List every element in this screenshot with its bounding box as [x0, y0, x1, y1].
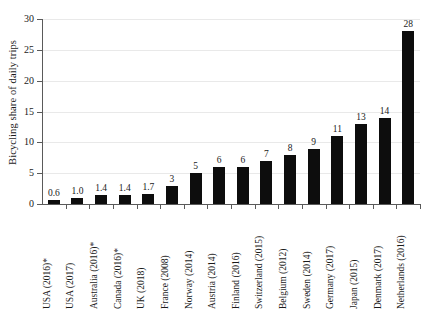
x-axis-label-text: France (2008)	[158, 255, 172, 309]
y-tick-label: 5	[12, 168, 34, 178]
y-tick-label: 0	[12, 199, 34, 209]
x-axis-label-text: Germany (2017)	[323, 246, 337, 309]
x-tick-mark	[137, 205, 138, 209]
bar-value-label: 28	[393, 20, 423, 30]
x-axis-label-text: Finland (2016)	[229, 252, 243, 309]
x-tick-mark	[89, 205, 90, 209]
x-tick-mark	[396, 205, 397, 209]
x-axis-label: France (2008)	[165, 209, 179, 309]
x-axis-label-text: Sweden (2014)	[300, 251, 314, 309]
x-axis-label-text: USA (2016)*	[40, 258, 54, 309]
x-axis-label: Switzerland (2015)	[259, 209, 273, 309]
x-axis-label: Netherlands (2016)	[401, 209, 415, 309]
x-axis-label: USA (2016)*	[47, 209, 61, 309]
bar	[308, 149, 320, 205]
x-tick-mark	[326, 205, 327, 209]
x-axis-label: Norway (2014)	[189, 209, 203, 309]
x-axis-label: Canada (2016)*	[118, 209, 132, 309]
bar-chart-figure: Bicycling share of daily trips 051015202…	[0, 0, 435, 310]
x-axis-label: Austria (2014)	[212, 209, 226, 309]
x-axis-label-text: Switzerland (2015)	[252, 236, 266, 309]
x-axis-label: Australia (2016)*	[94, 209, 108, 309]
x-tick-mark	[302, 205, 303, 209]
x-axis-label-text: Japan (2015)	[347, 260, 361, 309]
y-axis-line	[42, 19, 43, 205]
x-axis-label-text: Norway (2014)	[182, 251, 196, 309]
bar	[142, 194, 154, 204]
x-tick-mark	[349, 205, 350, 209]
bar	[213, 167, 225, 204]
bar	[119, 195, 131, 204]
bar	[355, 124, 367, 204]
bar	[284, 155, 296, 204]
x-tick-mark	[184, 205, 185, 209]
x-axis-label: Denmark (2017)	[378, 209, 392, 309]
y-tick-label: 20	[12, 76, 34, 86]
x-tick-mark	[420, 205, 421, 209]
bar	[71, 198, 83, 204]
x-axis-label-text: UK (2018)	[134, 268, 148, 309]
gridline	[42, 50, 420, 51]
x-tick-mark	[113, 205, 114, 209]
bar-value-label: 3	[157, 175, 187, 185]
bar	[331, 136, 343, 204]
bar-value-label: 11	[322, 125, 352, 135]
y-tick-label: 15	[12, 107, 34, 117]
bar	[402, 31, 414, 204]
bar	[190, 173, 202, 204]
x-axis-label-text: Denmark (2017)	[371, 246, 385, 309]
gridline	[42, 81, 420, 82]
gridline	[42, 19, 420, 20]
x-tick-mark	[373, 205, 374, 209]
bar	[237, 167, 249, 204]
x-axis-label: Finland (2016)	[236, 209, 250, 309]
bar	[260, 161, 272, 204]
bar	[48, 200, 60, 204]
bar-value-label: 14	[370, 107, 400, 117]
x-tick-mark	[255, 205, 256, 209]
x-axis-label-text: Canada (2016)*	[111, 248, 125, 309]
x-axis-label-text: Belgium (2012)	[276, 249, 290, 309]
x-axis-label-text: Netherlands (2016)	[394, 235, 408, 309]
y-tick-label: 10	[12, 137, 34, 147]
x-axis-label: Belgium (2012)	[283, 209, 297, 309]
x-axis-label: Sweden (2014)	[307, 209, 321, 309]
x-tick-mark	[231, 205, 232, 209]
x-tick-mark	[160, 205, 161, 209]
x-axis-label: Japan (2015)	[354, 209, 368, 309]
x-axis-label-text: Austria (2014)	[205, 253, 219, 309]
x-axis-label-text: Australia (2016)*	[87, 242, 101, 309]
x-axis-label: Germany (2017)	[330, 209, 344, 309]
x-axis-label: USA (2017)	[70, 209, 84, 309]
bar	[95, 195, 107, 204]
x-axis-label: UK (2018)	[141, 209, 155, 309]
bar	[166, 186, 178, 205]
x-axis-label-text: USA (2017)	[63, 263, 77, 309]
bar	[379, 118, 391, 204]
y-tick-label: 25	[12, 45, 34, 55]
bar-value-label: 9	[299, 138, 329, 148]
x-tick-mark	[207, 205, 208, 209]
x-tick-mark	[66, 205, 67, 209]
x-tick-mark	[278, 205, 279, 209]
y-tick-label: 30	[12, 14, 34, 24]
